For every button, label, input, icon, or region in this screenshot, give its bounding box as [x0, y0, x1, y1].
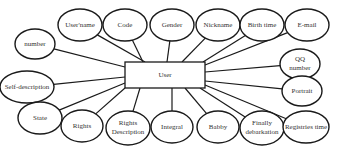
attribute-label: State	[33, 114, 47, 122]
attribute-label: Rights	[73, 122, 92, 130]
attribute-birth-time: Birth time	[240, 9, 284, 41]
attribute-label: Gender	[162, 21, 183, 29]
attribute-label: Registries time	[285, 123, 327, 131]
attribute-label: User'name	[65, 21, 95, 29]
connector-nickname	[182, 38, 205, 62]
attribute-label: Integral	[161, 123, 183, 131]
attribute-gender: Gender	[150, 9, 194, 41]
attribute-state: State	[18, 102, 62, 134]
connector-rights	[96, 88, 125, 114]
connector-gender	[167, 41, 170, 62]
connector-code	[132, 40, 143, 62]
attribute-self-description: Self-description	[0, 71, 54, 103]
attribute-code: Code	[103, 9, 147, 41]
attribute-registries-time: Registries time	[283, 111, 329, 143]
attribute-label: number	[289, 64, 311, 72]
entity-label: User	[158, 71, 172, 79]
attribute-label: Rights	[119, 119, 138, 127]
attribute-label: QQ	[295, 55, 305, 63]
attribute-label: E-mail	[297, 21, 316, 29]
attribute-babby: Babby	[197, 111, 239, 143]
attribute-rights-description: RightsDescription	[106, 111, 150, 145]
attribute-qq-number: QQnumber	[280, 49, 320, 79]
connector-portrait	[205, 81, 282, 89]
connector-babby	[185, 88, 207, 114]
attribute-label: Portrait	[292, 87, 313, 95]
attribute-label: Code	[118, 21, 133, 29]
attribute-nickname: Nickname	[196, 9, 240, 41]
attribute-rights: Rights	[61, 110, 103, 142]
attribute-label: Self-description	[5, 83, 50, 91]
er-diagram: User'nameCodeGenderNicknameBirth timeE-m…	[0, 0, 339, 151]
attribute-username: User'name	[58, 9, 102, 41]
attribute-finally-debarkation: Finallydebarkation	[240, 111, 284, 145]
attribute-label: number	[24, 40, 46, 48]
attribute-portrait: Portrait	[282, 76, 322, 106]
entity-user: User	[125, 62, 205, 88]
attribute-email: E-mail	[285, 9, 329, 41]
attribute-label: debarkation	[245, 128, 279, 136]
connector-number	[54, 49, 125, 67]
connector-rights-description	[133, 88, 140, 111]
attribute-label: Description	[112, 128, 145, 136]
attribute-label: Babby	[209, 123, 228, 131]
connector-qq-number	[205, 66, 280, 72]
connector-self-description	[54, 77, 125, 84]
attribute-label: Birth time	[248, 21, 277, 29]
attribute-integral: Integral	[151, 111, 193, 143]
attribute-label: Finally	[252, 119, 272, 127]
attribute-number: number	[15, 29, 55, 59]
attribute-label: Nickname	[204, 21, 233, 29]
